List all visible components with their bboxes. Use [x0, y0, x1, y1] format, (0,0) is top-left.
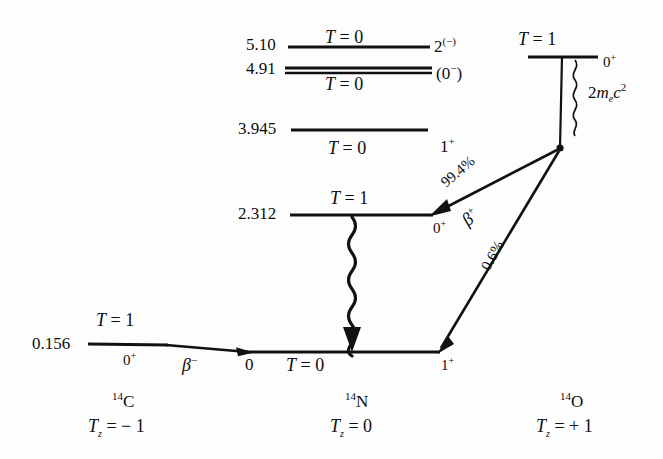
- isospin-symbol: T: [96, 310, 106, 330]
- isospin-value: 0: [354, 74, 363, 94]
- isospin-label-n14-4p91: T = 0: [325, 75, 363, 93]
- isospin-value: 1: [125, 310, 134, 330]
- tz-symbol: T: [88, 416, 98, 436]
- parity-value: +: [611, 52, 617, 63]
- beta-charge: −: [191, 354, 197, 366]
- energy-label-n14-ground: 0: [245, 356, 254, 373]
- spin-parity-n14-2p312: 0+: [433, 219, 446, 236]
- isospin-symbol: T: [325, 74, 335, 94]
- spin-parity-n14-3p945: 1+: [440, 136, 455, 155]
- nuclide-label-n14: 14N: [345, 391, 368, 410]
- isospin-label-n14-5p10: T = 0: [325, 28, 363, 46]
- energy-label-n14-3p945: 3.945: [238, 120, 276, 137]
- rest-mass-symbol: m: [597, 83, 609, 102]
- mass-number: 14: [560, 390, 571, 402]
- rest-mass-annotation: 2mec2: [588, 82, 626, 104]
- mass-number: 14: [345, 390, 356, 402]
- tz-value: = + 1: [554, 416, 592, 436]
- spin-value: 0: [433, 220, 441, 236]
- energy-label-n14-5p10: 5.10: [246, 36, 276, 53]
- parity-value: (−): [443, 35, 457, 47]
- isospin-symbol: T: [286, 355, 296, 375]
- element-symbol: N: [356, 392, 368, 411]
- isospin-projection-o14: Tz = + 1: [536, 417, 593, 439]
- isospin-label-o14-ground: T = 1: [518, 30, 556, 48]
- tz-value: = 0: [348, 416, 372, 436]
- isospin-symbol: T: [518, 29, 528, 49]
- isospin-eq: =: [343, 138, 353, 158]
- isospin-eq: =: [111, 310, 121, 330]
- isospin-value: 0: [354, 27, 363, 47]
- energy-label-n14-2p312: 2.312: [238, 205, 276, 222]
- spin-value: 1: [441, 357, 449, 373]
- isospin-symbol: T: [325, 27, 335, 47]
- spin-parity-n14-ground: 1+: [441, 356, 454, 373]
- element-symbol: C: [123, 392, 134, 411]
- isospin-projection-n14: Tz = 0: [330, 417, 372, 439]
- isospin-value: 0: [315, 355, 324, 375]
- tz-symbol: T: [536, 416, 546, 436]
- isospin-eq: =: [301, 355, 311, 375]
- parity-value: +: [449, 355, 455, 366]
- spin-value: 2: [434, 37, 443, 56]
- parity-value: +: [441, 218, 447, 229]
- transition-label-beta-minus: β−: [182, 355, 197, 374]
- energy-label-c14-ground: 0.156: [32, 335, 70, 352]
- o14-decay-stem: [560, 57, 562, 148]
- energy-label-n14-4p91: 4.91: [246, 60, 276, 77]
- isospin-symbol: T: [330, 188, 340, 208]
- o14-branch-vertex: [556, 144, 563, 151]
- isospin-eq: =: [345, 188, 355, 208]
- nuclide-label-c14: 14C: [112, 391, 134, 410]
- element-symbol: O: [571, 392, 583, 411]
- isospin-label-n14-3p945: T = 0: [328, 139, 366, 157]
- isospin-symbol: T: [328, 138, 338, 158]
- spin-parity-c14-ground: 0+: [123, 351, 136, 368]
- isospin-projection-c14: Tz = − 1: [88, 417, 145, 439]
- isospin-eq: =: [340, 74, 350, 94]
- rest-mass-variable: c: [613, 83, 621, 102]
- isospin-label-c14-ground: T = 1: [96, 311, 134, 329]
- parity-value: +: [449, 135, 455, 147]
- isospin-value: 1: [547, 29, 556, 49]
- transition-gamma-arrowhead: [343, 327, 361, 352]
- beta-symbol: β: [182, 355, 191, 375]
- spin-value: 0: [603, 54, 611, 70]
- spin-value: (0: [436, 64, 450, 83]
- rest-mass-coefficient: 2: [588, 83, 597, 102]
- rest-mass-exponent: 2: [621, 81, 627, 93]
- energy-level-diagram: 5.10 T = 0 2(−) 4.91 T = 0 (0−) 3.945 T …: [0, 0, 663, 459]
- parity-value: +: [131, 350, 137, 361]
- transition-beta-minus-line: [166, 345, 248, 352]
- nuclide-label-o14: 14O: [560, 391, 583, 410]
- spin-parity-n14-5p10: 2(−): [434, 36, 456, 55]
- transition-beta-plus-994-arrowhead: [429, 199, 451, 217]
- tz-symbol: T: [330, 416, 340, 436]
- spin-parity-n14-4p91: (0−): [436, 63, 462, 82]
- isospin-eq: =: [340, 27, 350, 47]
- level-line-c14-ground: [88, 344, 168, 345]
- spin-value: 1: [440, 137, 449, 156]
- isospin-eq: =: [533, 29, 543, 49]
- isospin-value: 1: [359, 188, 368, 208]
- tz-value: = − 1: [106, 416, 144, 436]
- isospin-label-n14-2p312: T = 1: [330, 189, 368, 207]
- isospin-label-n14-ground: T = 0: [286, 356, 324, 374]
- parity-tail: ): [456, 64, 462, 83]
- spin-value: 0: [123, 352, 131, 368]
- isospin-value: 0: [357, 138, 366, 158]
- spin-parity-o14-ground: 0+: [603, 53, 616, 70]
- rest-mass-brace: [573, 60, 576, 136]
- mass-number: 14: [112, 390, 123, 402]
